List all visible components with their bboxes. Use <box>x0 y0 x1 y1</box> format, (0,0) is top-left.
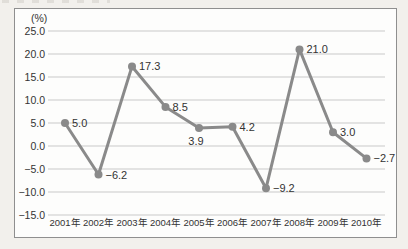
data-point <box>363 154 371 162</box>
x-tick-label: 2009年 <box>317 217 348 228</box>
y-tick-label: 15.0 <box>25 71 46 83</box>
data-point-label: 21.0 <box>307 43 328 55</box>
x-tick-label: 2006年 <box>217 217 248 228</box>
y-tick-label: 10.0 <box>25 94 46 106</box>
data-point-label: 3.9 <box>188 135 203 147</box>
data-point <box>128 62 136 70</box>
y-axis-unit-label: (%) <box>31 12 47 25</box>
y-tick-label: 20.0 <box>25 48 46 60</box>
data-point <box>162 103 170 111</box>
data-point-label: 5.0 <box>72 117 87 129</box>
line-chart-canvas: 25.020.015.010.05.00.0−5.0−10.0−15.02001… <box>15 9 396 237</box>
data-point <box>95 171 103 179</box>
data-point-label: 4.2 <box>240 121 255 133</box>
data-point <box>195 124 203 132</box>
y-tick-label: −10.0 <box>18 186 45 198</box>
x-tick-label: 2003年 <box>116 217 147 228</box>
x-tick-label: 2001年 <box>49 217 80 228</box>
y-tick-label: 0.0 <box>30 140 45 152</box>
data-line <box>65 49 367 188</box>
line-chart: 25.020.015.010.05.00.0−5.0−10.0−15.02001… <box>14 8 397 238</box>
y-tick-label: 5.0 <box>30 117 45 129</box>
data-point <box>329 128 337 136</box>
x-tick-label: 2010年 <box>351 217 382 228</box>
y-tick-label: 25.0 <box>25 25 46 37</box>
data-point-label: 3.0 <box>340 126 355 138</box>
y-tick-label: −15.0 <box>18 209 45 221</box>
x-tick-label: 2005年 <box>183 217 214 228</box>
data-point <box>61 119 69 127</box>
y-tick-label: −5.0 <box>24 163 45 175</box>
chart-page: 25.020.015.010.05.00.0−5.0−10.0−15.02001… <box>0 0 408 249</box>
data-point <box>296 45 304 53</box>
cropped-text-artifact <box>2 0 110 3</box>
x-tick-label: 2004年 <box>150 217 181 228</box>
data-point-label: −6.2 <box>106 169 128 181</box>
data-point <box>262 184 270 192</box>
data-point-label: −2.7 <box>374 152 396 164</box>
data-point-label: 17.3 <box>139 60 160 72</box>
data-point <box>229 123 237 131</box>
x-tick-label: 2007年 <box>250 217 281 228</box>
data-point-label: −9.2 <box>273 182 295 194</box>
x-tick-label: 2002年 <box>83 217 114 228</box>
data-point-label: 8.5 <box>173 101 188 113</box>
x-tick-label: 2008年 <box>284 217 315 228</box>
